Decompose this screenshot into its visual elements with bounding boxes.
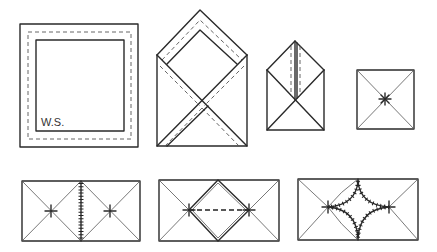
star-icon: [379, 93, 391, 105]
dashed-diag-3: [165, 106, 204, 146]
step-2-large-envelope: [157, 10, 247, 146]
star-stitches: [328, 181, 389, 238]
step-7-curved-star: [298, 179, 418, 240]
step-3-small-envelope: [267, 41, 324, 130]
dashed-diag-2: [204, 66, 244, 106]
dashed-diag-1: [160, 66, 200, 106]
step-5-joined-squares: [22, 181, 140, 241]
flap-dashed-guide: [162, 20, 242, 60]
step-6-diamond-fold: [159, 180, 279, 241]
step-4-star-square: [357, 70, 414, 129]
ws-label: W.S.: [41, 116, 64, 128]
step-1-square-sheet: W.S.: [20, 24, 138, 147]
inner-diag-1: [167, 106, 208, 146]
dashed-diag-4: [200, 106, 239, 146]
diamond-rect: [159, 180, 279, 241]
outer-square: [20, 24, 138, 147]
folding-diagram: W.S.: [0, 0, 437, 252]
